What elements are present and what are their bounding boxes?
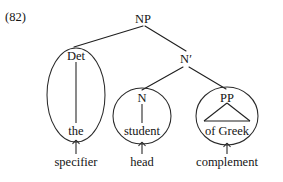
branch-np-nbar [145,26,186,51]
node-label-n: N [137,92,146,105]
terminal-label-the: the [68,125,83,138]
role-label-specifier: specifier [54,156,97,169]
node-label-pp: PP [220,92,234,105]
terminal-label-student: student [124,125,160,138]
pp-triangle [204,103,250,121]
branch-nbar-n [142,67,183,90]
role-label-complement: complement [196,156,258,169]
branch-np-det [74,26,143,47]
node-label-det: Det [67,50,85,63]
terminal-label-of-greek: of Greek [205,125,249,138]
syntax-tree-figure: (82) [0,0,283,182]
node-label-np: NP [135,13,151,26]
specifier-arrow [73,140,80,154]
role-label-head: head [130,156,154,169]
branch-nbar-pp [189,67,226,89]
node-label-nbar: N′ [180,53,192,66]
